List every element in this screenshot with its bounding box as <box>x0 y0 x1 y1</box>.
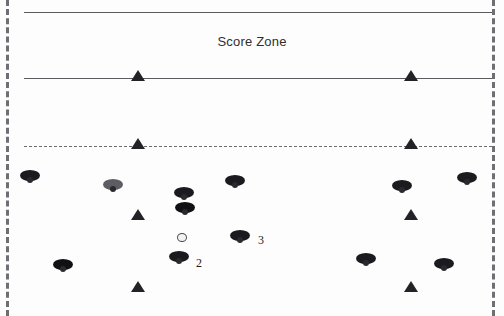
score-zone-label: Score Zone <box>0 34 504 49</box>
player-marker <box>173 200 199 218</box>
ball-icon <box>177 233 187 242</box>
player-head <box>237 237 243 243</box>
player-head <box>464 179 470 185</box>
player-marker <box>432 256 458 274</box>
player-marker <box>101 177 127 195</box>
player-marker <box>228 228 254 246</box>
position-number-label: 2 <box>196 256 202 271</box>
cone-marker <box>404 70 418 81</box>
player-marker <box>167 249 193 267</box>
player-head <box>182 209 188 215</box>
player-head <box>176 258 182 264</box>
player-marker <box>455 170 481 188</box>
cone-marker <box>404 138 418 149</box>
player-marker <box>18 168 44 186</box>
player-head <box>60 266 66 272</box>
player-head <box>399 187 405 193</box>
cone-marker <box>131 70 145 81</box>
player-head <box>232 182 238 188</box>
player-head <box>363 260 369 266</box>
cone-marker <box>404 281 418 292</box>
position-number-label: 3 <box>258 233 264 248</box>
score-zone-line <box>24 78 492 79</box>
player-marker <box>354 251 380 269</box>
player-marker <box>223 173 249 191</box>
cone-marker <box>131 281 145 292</box>
restraining-line <box>24 146 492 147</box>
end-line <box>24 12 492 13</box>
player-marker <box>51 257 77 275</box>
cone-marker <box>131 138 145 149</box>
player-head <box>110 186 116 192</box>
player-head <box>441 265 447 271</box>
player-head <box>27 177 33 183</box>
field-diagram: Score Zone 23 <box>0 0 504 316</box>
cone-marker <box>131 209 145 220</box>
cone-marker <box>404 209 418 220</box>
player-marker <box>390 178 416 196</box>
